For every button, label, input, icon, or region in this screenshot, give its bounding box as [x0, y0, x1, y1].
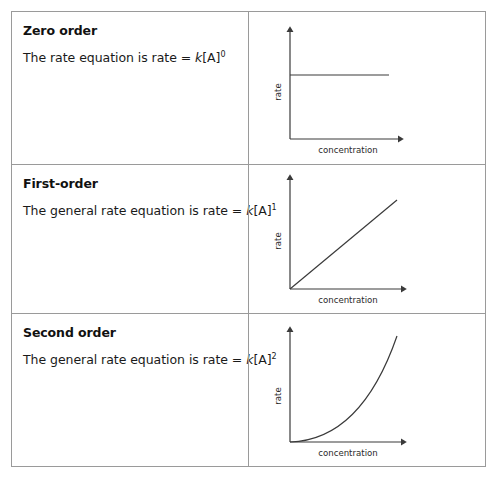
second-order-graph-cell: rate concentration: [248, 314, 485, 466]
page-title: First-order: [23, 176, 238, 191]
page-title: Zero order: [23, 23, 238, 38]
second-order-graph: rate concentration: [249, 314, 487, 466]
zero-order-equation: The rate equation is rate = k[A]0: [23, 50, 238, 65]
x-axis-label: concentration: [318, 295, 378, 305]
table-row: First-order The general rate equation is…: [12, 164, 485, 313]
y-axis-label: rate: [273, 232, 283, 249]
y-axis-label: rate: [273, 387, 283, 404]
first-order-graph: rate concentration: [249, 165, 487, 313]
table-row: Zero order The rate equation is rate = k…: [12, 12, 485, 164]
first-order-graph-cell: rate concentration: [248, 165, 485, 313]
equation-prefix: The general rate equation is rate =: [23, 203, 246, 218]
second-order-curve: [290, 336, 397, 442]
concentration-bracket: [A]: [202, 50, 220, 65]
second-order-equation: The general rate equation is rate = k[A]…: [23, 352, 238, 367]
x-axis-label: concentration: [318, 145, 378, 155]
x-axis-label: concentration: [318, 448, 378, 458]
zero-order-description-cell: Zero order The rate equation is rate = k…: [12, 12, 248, 164]
equation-prefix: The rate equation is rate =: [23, 50, 195, 65]
table-row: Second order The general rate equation i…: [12, 313, 485, 466]
zero-order-graph: rate concentration: [249, 12, 487, 163]
y-axis-label: rate: [273, 83, 283, 100]
second-order-description-cell: Second order The general rate equation i…: [12, 314, 248, 466]
rate-equations-table: Zero order The rate equation is rate = k…: [11, 11, 486, 467]
zero-order-graph-cell: rate concentration: [248, 12, 485, 164]
first-order-curve: [290, 200, 397, 289]
page-title: Second order: [23, 325, 238, 340]
first-order-description-cell: First-order The general rate equation is…: [12, 165, 248, 313]
equation-exponent: 0: [220, 50, 225, 59]
first-order-equation: The general rate equation is rate = k[A]…: [23, 203, 238, 218]
equation-prefix: The general rate equation is rate =: [23, 352, 246, 367]
